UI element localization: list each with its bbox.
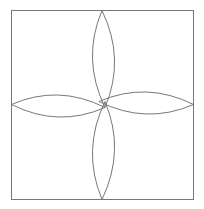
square-frame xyxy=(12,11,194,200)
petal-right xyxy=(99,92,194,114)
petal-top xyxy=(92,11,114,108)
petal-left xyxy=(12,95,106,117)
four-petal-diagram xyxy=(0,0,204,209)
petal-bottom xyxy=(92,102,114,200)
